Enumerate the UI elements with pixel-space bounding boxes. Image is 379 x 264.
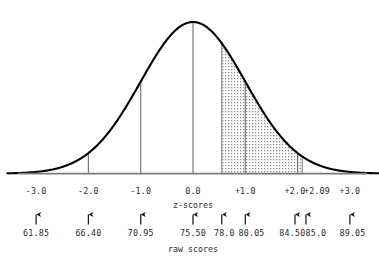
raw-score-tick-label: 80.05 (239, 228, 265, 238)
z-score-tick-label: +1.0 (235, 186, 256, 196)
z-score-tick-label: +2.09 (304, 186, 330, 196)
raw-score-tick-label: 70.95 (128, 228, 154, 238)
z-score-tick-label: -2.0 (78, 186, 99, 196)
raw-score-tick-label: 78.0 (214, 228, 235, 238)
gridline-group (36, 22, 350, 174)
raw-scores-axis-caption: raw scores (168, 244, 218, 254)
raw-score-tick-label: 75.50 (180, 228, 206, 238)
z-score-tick-label: +3.0 (340, 186, 361, 196)
z-score-tick-label: +2.0 (285, 186, 306, 196)
z-score-tick-label: 0.0 (185, 186, 201, 196)
tick-arrow-group (36, 215, 350, 225)
raw-score-tick-label: 61.85 (23, 228, 49, 238)
normal-distribution-figure (0, 0, 379, 264)
raw-score-tick-label: 84.50 (279, 228, 305, 238)
raw-score-tick-label: 89.05 (340, 228, 366, 238)
raw-score-tick-label: 66.40 (75, 228, 101, 238)
raw-score-tick-label: 85.0 (306, 228, 327, 238)
z-score-tick-label: -1.0 (130, 186, 151, 196)
z-scores-axis-caption: z-scores (173, 200, 213, 210)
z-score-tick-label: -3.0 (26, 186, 47, 196)
